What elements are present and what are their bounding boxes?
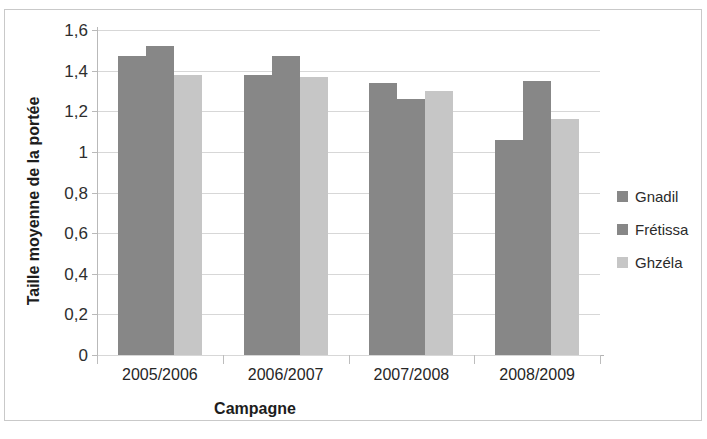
legend-swatch-icon [617, 191, 628, 202]
x-axis-title: Campagne [97, 400, 413, 418]
x-axis-tick-label: 2005/2006 [97, 366, 223, 384]
x-axis-tick-label: 2008/2009 [474, 366, 600, 384]
legend-item[interactable]: Frétissa [617, 213, 701, 246]
legend-label: Frétissa [635, 221, 688, 238]
bar-group [97, 30, 223, 355]
y-axis-tick-label: 1,2 [48, 103, 88, 120]
bar-group [223, 30, 349, 355]
legend-item[interactable]: Ghzéla [617, 246, 701, 279]
y-axis-tick-label: 1,4 [48, 62, 88, 79]
bar[interactable] [272, 56, 300, 355]
chart-legend: GnadilFrétissaGhzéla [617, 180, 701, 279]
legend-swatch-icon [617, 257, 628, 268]
x-axis-tick-mark [349, 355, 350, 364]
x-axis-tick-label: 2006/2007 [223, 366, 349, 384]
y-axis-tick-label: 1 [48, 143, 88, 160]
legend-label: Ghzéla [635, 254, 683, 271]
x-axis-tick-label: 2007/2008 [349, 366, 475, 384]
x-axis-tick-mark [97, 355, 98, 364]
y-axis-tick-labels: 1,61,41,210,80,60,40,20 [40, 0, 88, 439]
y-axis-tick-label: 1,6 [48, 22, 88, 39]
bar[interactable] [495, 140, 523, 355]
y-axis-tick-label: 0,4 [48, 265, 88, 282]
bar[interactable] [244, 75, 272, 355]
y-axis-tick-label: 0,2 [48, 306, 88, 323]
bar[interactable] [551, 119, 579, 355]
y-axis-tick-label: 0,8 [48, 184, 88, 201]
bar[interactable] [397, 99, 425, 355]
y-axis-tick-mark [92, 233, 98, 234]
y-axis-tick-mark [92, 71, 98, 72]
bar[interactable] [146, 46, 174, 355]
x-axis-tick-mark [600, 355, 601, 364]
bar[interactable] [369, 83, 397, 355]
plot-area [97, 30, 600, 355]
legend-label: Gnadil [635, 188, 678, 205]
bar[interactable] [523, 81, 551, 355]
y-axis-tick-mark [92, 193, 98, 194]
y-axis-title: Taille moyenne de la portée [25, 61, 43, 341]
y-axis-tick-mark [92, 30, 98, 31]
y-axis-tick-mark [92, 152, 98, 153]
bar[interactable] [118, 56, 146, 355]
x-axis-tick-mark [223, 355, 224, 364]
bar[interactable] [300, 77, 328, 355]
bar-group [349, 30, 475, 355]
legend-swatch-icon [617, 224, 628, 235]
y-axis-tick-label: 0 [48, 347, 88, 364]
bar[interactable] [174, 75, 202, 355]
legend-item[interactable]: Gnadil [617, 180, 701, 213]
y-axis-tick-mark [92, 111, 98, 112]
y-axis-tick-label: 0,6 [48, 225, 88, 242]
chart-figure: 1,61,41,210,80,60,40,20 Taille moyenne d… [0, 0, 707, 439]
x-axis-tick-mark [474, 355, 475, 364]
y-axis-tick-mark [92, 314, 98, 315]
y-axis-tick-mark [92, 274, 98, 275]
bar[interactable] [425, 91, 453, 355]
bar-group [474, 30, 600, 355]
